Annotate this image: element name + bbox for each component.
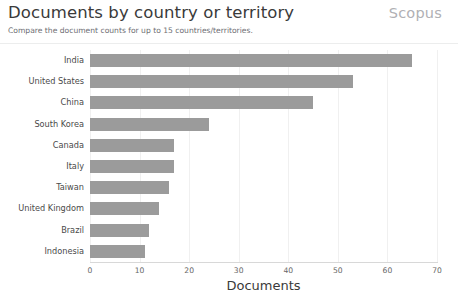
page-subtitle: Compare the document counts for up to 15… [8,26,253,35]
category-label: Canada [53,138,84,152]
bar-rows: IndiaUnited StatesChinaSouth KoreaCanada… [90,50,437,262]
bar-row[interactable]: China [90,92,437,113]
category-label: United Kingdom [18,201,84,215]
category-label: India [64,53,84,67]
category-label: Taiwan [56,180,84,194]
category-label: Indonesia [44,244,84,258]
bar[interactable] [90,160,174,173]
x-tick-label: 60 [383,266,393,275]
bar[interactable] [90,139,174,152]
bar-row[interactable]: Brazil [90,220,437,241]
x-axis-title: Documents [90,278,437,293]
bar-row[interactable]: South Korea [90,114,437,135]
bar-row[interactable]: Italy [90,156,437,177]
bar-row[interactable]: Taiwan [90,177,437,198]
bar-row[interactable]: Canada [90,135,437,156]
plot-area: IndiaUnited StatesChinaSouth KoreaCanada… [90,50,437,262]
category-label: Brazil [61,223,84,237]
category-label: China [61,95,84,109]
bar-row[interactable]: India [90,50,437,71]
bar-chart: IndiaUnited StatesChinaSouth KoreaCanada… [0,44,458,304]
x-axis-line [90,262,438,263]
bar[interactable] [90,202,159,215]
bar[interactable] [90,96,313,109]
category-label: South Korea [34,117,84,131]
x-tick-label: 0 [88,266,93,275]
x-tick-label: 50 [333,266,343,275]
bar-row[interactable]: United States [90,71,437,92]
x-tick-label: 30 [234,266,244,275]
x-tick-label: 10 [135,266,145,275]
bar-row[interactable]: United Kingdom [90,198,437,219]
bar[interactable] [90,245,145,258]
bar[interactable] [90,54,412,67]
x-tick-label: 40 [283,266,293,275]
scopus-brand-logo: Scopus [389,5,442,21]
bar[interactable] [90,181,169,194]
scopus-documents-by-country-widget: Documents by country or territory Scopus… [0,0,458,304]
page-title: Documents by country or territory [8,3,294,22]
widget-header: Documents by country or territory Scopus… [0,0,458,44]
x-tick-label: 20 [184,266,194,275]
bar[interactable] [90,75,353,88]
category-label: United States [29,74,84,88]
gridline-70 [437,50,438,262]
category-label: Italy [66,159,84,173]
bar-row[interactable]: Indonesia [90,241,437,262]
bar[interactable] [90,224,149,237]
bar[interactable] [90,118,209,131]
x-tick-label: 70 [432,266,442,275]
